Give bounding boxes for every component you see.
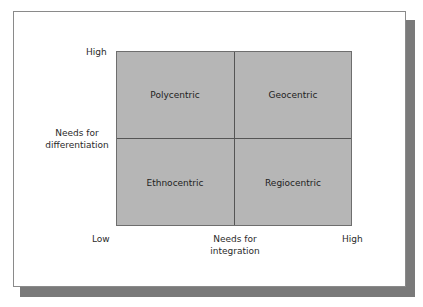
x-axis-title-line1: Needs for — [204, 233, 266, 245]
y-axis-title-line2: differentiation — [40, 139, 114, 151]
y-axis-high-label: High — [86, 46, 107, 58]
horizontal-divider — [117, 138, 351, 139]
quadrant-matrix — [116, 51, 352, 226]
quadrant-polycentric: Polycentric — [150, 90, 199, 100]
y-axis-title: Needs for differentiation — [40, 127, 114, 151]
y-axis-title-line1: Needs for — [40, 127, 114, 139]
x-axis-title-line2: integration — [204, 245, 266, 257]
x-axis-high-label: High — [342, 233, 363, 245]
x-axis-low-label: Low — [92, 233, 110, 245]
quadrant-geocentric: Geocentric — [269, 90, 318, 100]
quadrant-regiocentric: Regiocentric — [265, 178, 321, 188]
x-axis-title: Needs for integration — [204, 233, 266, 257]
quadrant-ethnocentric: Ethnocentric — [147, 178, 204, 188]
